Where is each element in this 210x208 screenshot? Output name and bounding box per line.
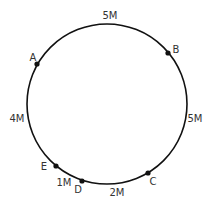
point-d-marker [79,178,84,183]
point-e-marker [53,163,58,168]
segment-c-d-distance-label: 2M [110,187,125,198]
point-c-marker [145,170,150,175]
points-layer: ABCDE [30,44,180,195]
point-e-label: E [41,161,47,172]
segment-labels: 5M5M2M1M4M [10,10,203,198]
point-b-label: B [173,44,180,55]
point-a-label: A [30,52,37,63]
segment-a-b-distance-label: 5M [103,10,118,21]
point-c-label: C [150,176,157,187]
circular-track-diagram: ABCDE 5M5M2M1M4M [0,0,210,208]
point-d-label: D [74,184,82,195]
point-b-marker [165,50,170,55]
segment-e-a-distance-label: 4M [10,113,25,124]
segment-b-c-distance-label: 5M [188,113,203,124]
track-circle [27,24,187,184]
segment-d-e-distance-label: 1M [57,177,72,188]
